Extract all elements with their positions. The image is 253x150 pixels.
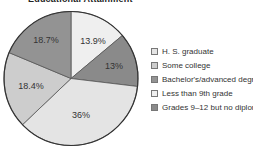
slice-label-grades-9-12: 13% [105, 61, 123, 71]
legend-label: Grades 9–12 but no diploma [162, 103, 253, 112]
slice-label-hs-graduate: 36% [72, 110, 90, 120]
legend-item-bachelors: Bachelor's/advanced degree [151, 72, 253, 86]
legend-swatch [151, 48, 158, 55]
legend-swatch [151, 104, 158, 111]
slice-label-some-college: 18.4% [18, 81, 44, 91]
legend-swatch [151, 90, 158, 97]
legend-swatch [151, 76, 158, 83]
legend-swatch [151, 62, 158, 69]
legend: H. S. graduate Some college Bachelor's/a… [151, 44, 253, 114]
slice-label-bachelors: 18.7% [33, 35, 59, 45]
slice-label-less-than-9th: 13.9% [80, 36, 106, 46]
legend-label: Some college [162, 61, 210, 70]
pie-chart: 13.9% 13% 36% 18.4% 18.7% [0, 0, 150, 150]
legend-item-hs-graduate: H. S. graduate [151, 44, 253, 58]
legend-item-grades-9-12: Grades 9–12 but no diploma [151, 100, 253, 114]
legend-item-less-than-9th: Less than 9th grade [151, 86, 253, 100]
legend-label: Less than 9th grade [162, 89, 233, 98]
legend-label: H. S. graduate [162, 47, 214, 56]
legend-label: Bachelor's/advanced degree [162, 75, 253, 84]
legend-item-some-college: Some college [151, 58, 253, 72]
